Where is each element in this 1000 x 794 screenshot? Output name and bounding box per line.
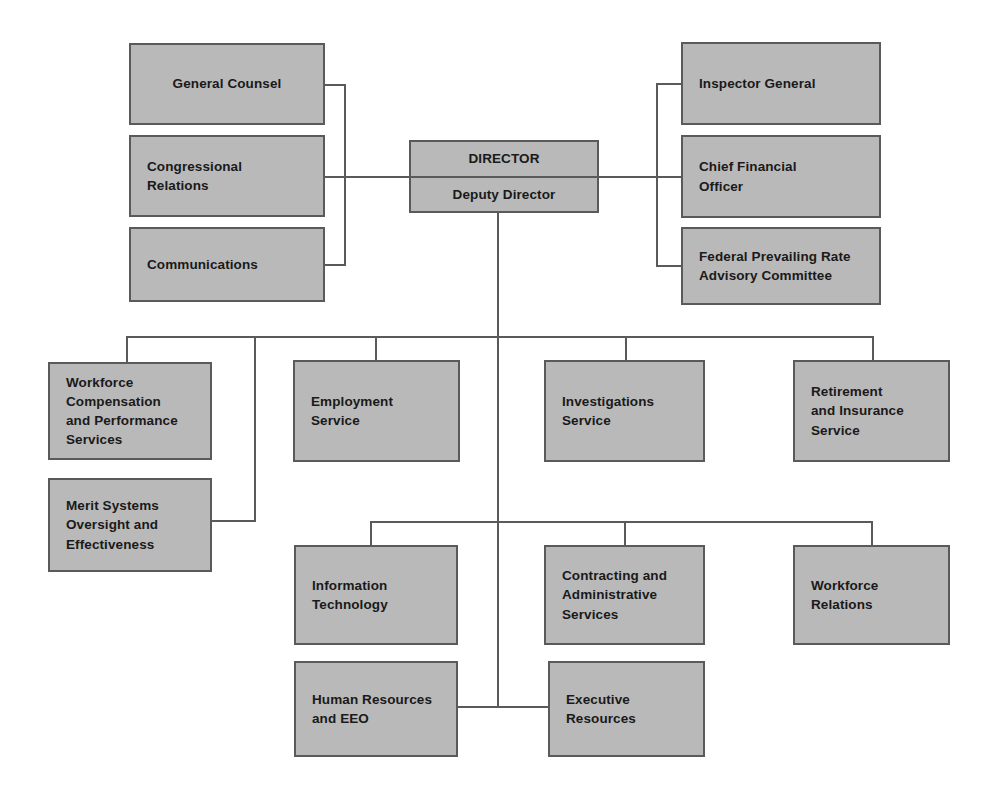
node-workforce-relations[interactable]: Workforce Relations <box>793 545 950 645</box>
node-chief-financial-officer[interactable]: Chief Financial Officer <box>681 135 881 218</box>
connector-communications <box>324 264 346 266</box>
node-merit-systems-oversight-and-effectiveness[interactable]: Merit Systems Oversight and Effectivenes… <box>48 478 212 572</box>
node-label: Chief Financial Officer <box>683 157 879 195</box>
connector-executive-resources <box>497 706 549 708</box>
node-label: Congressional Relations <box>131 157 323 195</box>
node-label: General Counsel <box>131 74 323 93</box>
connector-congressional-relations <box>324 176 346 178</box>
node-label: Employment Service <box>295 392 458 430</box>
connector-drop-information-technology <box>370 521 372 545</box>
connector-inspector-general <box>656 83 683 85</box>
connector-human-resources <box>458 706 498 708</box>
node-label: Workforce Compensation and Performance S… <box>50 373 210 450</box>
node-human-resources-and-eeo[interactable]: Human Resources and EEO <box>294 661 458 757</box>
node-label: Human Resources and EEO <box>296 690 456 728</box>
node-label: Deputy Director <box>453 185 556 204</box>
connector-drop-contracting-administrative <box>624 521 626 545</box>
connector-programs-bus <box>126 336 874 338</box>
connector-general-counsel <box>324 84 346 86</box>
connector-drop-investigations-service <box>625 336 627 360</box>
connector-federal-prevailing-rate <box>656 265 683 267</box>
node-inspector-general[interactable]: Inspector General <box>681 42 881 125</box>
node-employment-service[interactable]: Employment Service <box>293 360 460 462</box>
connector-drop-merit-systems-vertical <box>254 336 256 522</box>
connector-left-bracket-vertical <box>344 84 346 266</box>
node-label: Communications <box>131 255 323 274</box>
node-label: DIRECTOR <box>468 149 539 168</box>
node-federal-prevailing-rate-advisory-committee[interactable]: Federal Prevailing Rate Advisory Committ… <box>681 227 881 305</box>
node-label: Executive Resources <box>550 690 703 728</box>
node-label: Inspector General <box>683 74 879 93</box>
connector-director-to-right-bus <box>598 176 658 178</box>
node-label: Information Technology <box>296 576 456 614</box>
connector-central-spine <box>497 212 499 708</box>
node-label: Federal Prevailing Rate Advisory Committ… <box>683 247 879 285</box>
node-workforce-compensation-and-performance-services[interactable]: Workforce Compensation and Performance S… <box>48 362 212 460</box>
node-label: Investigations Service <box>546 392 703 430</box>
connector-drop-workforce-compensation <box>126 336 128 362</box>
node-label: Merit Systems Oversight and Effectivenes… <box>50 496 210 553</box>
node-general-counsel[interactable]: General Counsel <box>129 43 325 125</box>
connector-merit-systems-horizontal <box>212 520 256 522</box>
connector-support-bus <box>370 521 873 523</box>
node-deputy-director-title: Deputy Director <box>411 178 597 212</box>
node-director-title: DIRECTOR <box>411 142 597 178</box>
node-contracting-and-administrative-services[interactable]: Contracting and Administrative Services <box>544 545 705 645</box>
node-information-technology[interactable]: Information Technology <box>294 545 458 645</box>
connector-right-bracket-vertical <box>656 83 658 267</box>
node-investigations-service[interactable]: Investigations Service <box>544 360 705 462</box>
connector-drop-employment-service <box>375 336 377 360</box>
node-label: Retirement and Insurance Service <box>795 382 948 439</box>
node-label: Workforce Relations <box>795 576 948 614</box>
connector-drop-workforce-relations <box>871 521 873 545</box>
node-retirement-and-insurance-service[interactable]: Retirement and Insurance Service <box>793 360 950 462</box>
connector-chief-financial-officer <box>656 176 683 178</box>
connector-drop-retirement-insurance <box>872 336 874 360</box>
node-communications[interactable]: Communications <box>129 227 325 302</box>
node-executive-resources[interactable]: Executive Resources <box>548 661 705 757</box>
node-congressional-relations[interactable]: Congressional Relations <box>129 135 325 217</box>
connector-left-bus-to-director <box>344 176 410 178</box>
node-director[interactable]: DIRECTOR Deputy Director <box>409 140 599 213</box>
node-label: Contracting and Administrative Services <box>546 566 703 623</box>
org-chart-canvas: General Counsel Congressional Relations … <box>0 0 1000 794</box>
